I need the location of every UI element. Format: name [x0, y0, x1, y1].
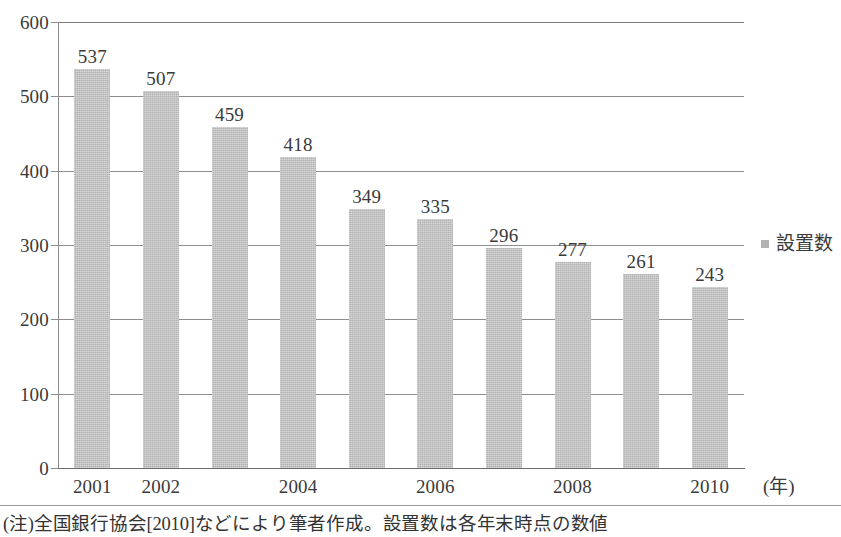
- chart-legend: 設置数: [761, 234, 833, 253]
- tick-stub-300: [51, 245, 58, 246]
- bar-value-2003: 459: [215, 105, 244, 124]
- tick-stub-600: [51, 22, 58, 23]
- x-axis-label-2004: 2004: [279, 477, 318, 496]
- y-axis-label-200: 200: [20, 310, 49, 329]
- legend-label-installations: 設置数: [776, 234, 833, 253]
- y-axis-label-0: 0: [39, 459, 49, 478]
- x-axis-line: [58, 468, 745, 469]
- plot-area: 600 500 400 300 200 100: [58, 22, 744, 468]
- x-axis-unit-label: (年): [763, 477, 795, 496]
- x-axis-label-2008: 2008: [553, 477, 592, 496]
- bar-2002: 507: [143, 91, 179, 468]
- bar-value-2005: 349: [352, 187, 381, 206]
- bar-value-2008: 277: [558, 240, 587, 259]
- bar-value-2002: 507: [146, 69, 175, 88]
- x-axis-label-2002: 2002: [141, 477, 180, 496]
- x-axis-label-2001: 2001: [73, 477, 112, 496]
- tick-stub-100: [51, 394, 58, 395]
- chart-footnote: (注)全国銀行協会[2010]などにより筆者作成。設置数は各年末時点の数値: [3, 512, 608, 536]
- y-axis-label-100: 100: [20, 384, 49, 403]
- bar-2008: 277: [555, 262, 591, 468]
- tick-stub-200: [51, 319, 58, 320]
- tick-stub-500: [51, 96, 58, 97]
- tick-stub-0: [51, 468, 58, 469]
- y-axis-label-600: 600: [20, 13, 49, 32]
- legend-swatch-icon: [761, 240, 769, 248]
- bar-value-2007: 296: [489, 226, 518, 245]
- bar-2006: 335: [417, 219, 453, 468]
- bar-2007: 296: [486, 248, 522, 468]
- bar-2010: 243: [692, 287, 728, 468]
- y-axis-line: [58, 22, 59, 469]
- footnote-divider: [0, 505, 841, 506]
- bar-value-2004: 418: [284, 135, 313, 154]
- tick-stub-400: [51, 171, 58, 172]
- gridline-600: [58, 22, 744, 23]
- x-axis-label-2010: 2010: [690, 477, 729, 496]
- y-axis-label-400: 400: [20, 161, 49, 180]
- bar-2001: 537: [74, 69, 110, 468]
- bar-2003: 459: [212, 127, 248, 468]
- x-axis-label-2006: 2006: [416, 477, 455, 496]
- bar-value-2010: 243: [695, 265, 724, 284]
- y-axis-label-500: 500: [20, 87, 49, 106]
- bar-value-2006: 335: [421, 197, 450, 216]
- bar-2004: 418: [280, 157, 316, 468]
- bar-chart: 600 500 400 300 200 100: [0, 0, 841, 537]
- bar-2009: 261: [623, 274, 659, 468]
- y-axis-label-300: 300: [20, 236, 49, 255]
- bar-value-2001: 537: [78, 47, 107, 66]
- bar-value-2009: 261: [627, 252, 656, 271]
- bar-2005: 349: [349, 209, 385, 468]
